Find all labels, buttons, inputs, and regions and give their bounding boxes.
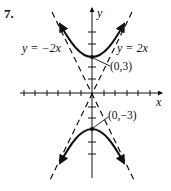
problem-number: 7. [4, 6, 14, 21]
asymptote-neg-label: y = −2x [21, 41, 62, 55]
y-axis-label: y [96, 6, 103, 20]
x-axis-label: x [155, 95, 162, 109]
hyperbola-figure: 7. x y [0, 0, 171, 191]
vertex-top-label: (0,3) [110, 60, 132, 73]
asymptote-pos-label: y = 2x [116, 41, 148, 55]
vertex-bottom-label: (0,−3) [108, 109, 137, 122]
